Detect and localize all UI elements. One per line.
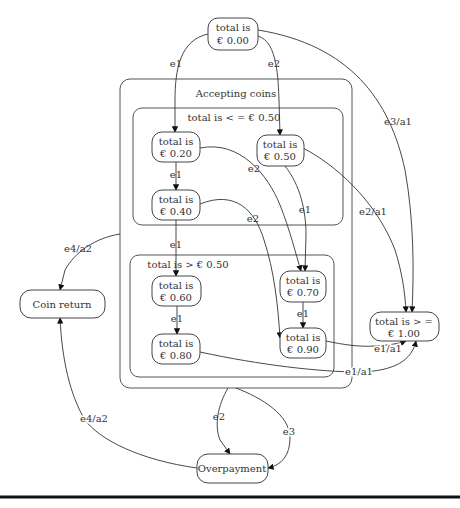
- edge-label-020-070: e2: [248, 163, 260, 174]
- state-total-000: total is € 0.00: [208, 18, 258, 50]
- edge-label-accepting-overpayment-e2: e2: [213, 411, 225, 422]
- state-070-line2: € 0.70: [286, 287, 319, 298]
- state-total-050: total is € 0.50: [257, 135, 304, 166]
- edge-label-040-090: e2: [247, 213, 259, 224]
- cluster-accepting-coins-label: Accepting coins: [195, 88, 276, 99]
- state-total-080: total is € 0.80: [152, 334, 200, 364]
- state-overpayment-label: Overpayment: [198, 463, 266, 474]
- state-050-line1: total is: [263, 139, 298, 150]
- edge-000-to-100: [258, 30, 413, 312]
- state-080-line2: € 0.80: [159, 350, 192, 361]
- edge-label-000-020: e1: [170, 58, 182, 69]
- state-020-line2: € 0.20: [159, 148, 192, 159]
- state-020-line1: total is: [159, 136, 194, 147]
- edge-label-accepting-overpayment-e3: e3: [283, 426, 295, 437]
- state-total-070: total is € 0.70: [280, 271, 326, 302]
- cluster-total-le-050-label: total is < = € 0.50: [188, 112, 281, 123]
- state-100-line2: € 1.00: [387, 328, 420, 339]
- state-coin-return-label: Coin return: [33, 299, 92, 310]
- state-total-060: total is € 0.60: [152, 276, 201, 306]
- state-000-line1: total is: [216, 22, 251, 33]
- state-040-line1: total is: [159, 194, 194, 205]
- state-060-line1: total is: [159, 280, 194, 291]
- edge-label-080-100: e1/a1: [345, 366, 373, 377]
- edge-label-020-040: e1: [170, 169, 182, 180]
- state-000-line2: € 0.00: [216, 35, 249, 46]
- edge-label-050-100: e2/a1: [359, 206, 387, 217]
- cluster-total-gt-050-label: total is > € 0.50: [147, 259, 228, 270]
- state-diagram: Accepting coins total is < = € 0.50 tota…: [0, 0, 460, 508]
- edge-label-060-080: e1: [171, 313, 183, 324]
- state-coin-return: Coin return: [20, 290, 105, 318]
- state-040-line2: € 0.40: [159, 206, 192, 217]
- state-total-090: total is € 0.90: [280, 328, 326, 358]
- state-060-line2: € 0.60: [159, 292, 192, 303]
- state-080-line1: total is: [159, 338, 194, 349]
- edge-label-accepting-coin-return: e4/a2: [64, 243, 92, 254]
- state-090-line2: € 0.90: [286, 344, 319, 355]
- edge-label-050-070: e1: [299, 204, 311, 215]
- state-overpayment: Overpayment: [197, 454, 268, 483]
- state-050-line2: € 0.50: [263, 151, 296, 162]
- state-070-line1: total is: [286, 275, 321, 286]
- edge-label-000-050: e2: [268, 58, 280, 69]
- state-090-line1: total is: [286, 332, 321, 343]
- state-total-ge-100: total is > = € 1.00: [370, 312, 439, 341]
- edge-label-090-100: e1/a1: [374, 343, 402, 354]
- edge-label-overpayment-coin-return: e4/a2: [80, 413, 108, 424]
- state-total-020: total is € 0.20: [152, 132, 200, 162]
- state-100-line1: total is > =: [375, 316, 433, 327]
- state-total-040: total is € 0.40: [152, 190, 200, 220]
- edge-label-000-100: e3/a1: [384, 116, 412, 127]
- edge-label-040-060: e1: [170, 239, 182, 250]
- edge-label-070-090: e1: [297, 308, 309, 319]
